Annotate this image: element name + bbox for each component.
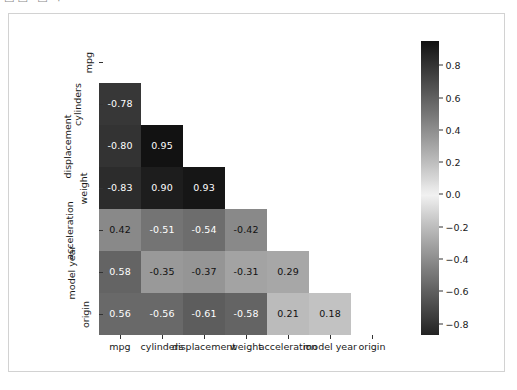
colorbar-tick-mark bbox=[439, 162, 443, 163]
colorbar-tick-mark bbox=[439, 291, 443, 292]
colorbar-tick-mark bbox=[439, 226, 443, 227]
colorbar-tick-label: 0.0 bbox=[446, 189, 461, 200]
colorbar-tick: −0.4 bbox=[439, 254, 469, 265]
x-axis-tick-label: mpg bbox=[109, 341, 130, 352]
colorbar-tick: −0.8 bbox=[439, 318, 469, 329]
cut-off-toolbar-strip: ▭▭ ▭ ⌐ bbox=[0, 0, 517, 9]
x-axis-tick-origin: origin bbox=[351, 335, 393, 352]
colorbar-tick: −0.2 bbox=[439, 221, 469, 232]
colorbar-tick-label: −0.6 bbox=[446, 286, 469, 297]
colorbar-tick: 0.4 bbox=[439, 124, 461, 135]
colorbar-tick-mark bbox=[439, 259, 443, 260]
y-axis-tick-label: origin bbox=[80, 300, 91, 327]
y-axis-tick-label: mpg bbox=[83, 51, 94, 72]
colorbar-tick-label: −0.4 bbox=[446, 254, 469, 265]
heatmap-cell: -0.56 bbox=[141, 293, 183, 335]
y-axis-tick-mark bbox=[99, 188, 103, 189]
heatmap-cell: 0.56 bbox=[99, 293, 141, 335]
x-axis-tick-label: weight bbox=[230, 341, 262, 352]
x-axis-tick-model-year: model year bbox=[309, 335, 351, 352]
x-axis-tick-mark bbox=[120, 335, 121, 339]
colorbar-tick-mark bbox=[439, 65, 443, 66]
y-axis-tick-mark bbox=[99, 314, 103, 315]
heatmap-cell: -0.58 bbox=[225, 293, 267, 335]
heatmap-cell: -0.78 bbox=[99, 83, 141, 125]
y-axis-tick-mark bbox=[99, 104, 103, 105]
heatmap-cell: -0.31 bbox=[225, 251, 267, 293]
colorbar: 0.80.60.40.20.0−0.2−0.4−0.6−0.8 bbox=[421, 41, 439, 335]
heatmap-cell: -0.42 bbox=[225, 209, 267, 251]
y-axis-tick-mpg: mpg bbox=[0, 41, 99, 83]
colorbar-gradient bbox=[421, 41, 439, 335]
y-axis-tick-cylinders: cylinders bbox=[0, 83, 99, 125]
x-axis-tick-mark bbox=[372, 335, 373, 339]
heatmap-cell: 0.93 bbox=[183, 167, 225, 209]
heatmap-cell: -0.35 bbox=[141, 251, 183, 293]
y-axis-tick-label: model year bbox=[67, 245, 78, 299]
heatmap-cell: 0.21 bbox=[267, 293, 309, 335]
x-axis-tick-mark bbox=[330, 335, 331, 339]
y-axis-tick-mark bbox=[99, 62, 103, 63]
x-axis-tick-label: origin bbox=[358, 341, 385, 352]
heatmap-cell: -0.54 bbox=[183, 209, 225, 251]
colorbar-tick-label: 0.4 bbox=[446, 124, 461, 135]
colorbar-tick-mark bbox=[439, 323, 443, 324]
toolbar-glyph-fragment: ▭▭ ▭ ⌐ bbox=[4, 0, 69, 6]
y-axis-tick-acceleration: acceleration bbox=[0, 209, 99, 251]
heatmap-cell: -0.61 bbox=[183, 293, 225, 335]
y-axis-tick-label: cylinders bbox=[72, 83, 83, 126]
correlation-heatmap: -0.78-0.800.95-0.830.900.930.42-0.51-0.5… bbox=[99, 41, 393, 335]
heatmap-cell: 0.42 bbox=[99, 209, 141, 251]
colorbar-tick: 0.8 bbox=[439, 60, 461, 71]
heatmap-cell: 0.29 bbox=[267, 251, 309, 293]
y-axis-tick-model-year: model year bbox=[0, 251, 99, 293]
y-axis-tick-displacement: displacement bbox=[0, 125, 99, 167]
x-axis-tick-mark bbox=[162, 335, 163, 339]
colorbar-tick: 0.2 bbox=[439, 157, 461, 168]
colorbar-tick-label: 0.6 bbox=[446, 92, 461, 103]
x-axis-tick-mark bbox=[246, 335, 247, 339]
y-axis-tick-origin: origin bbox=[0, 293, 99, 335]
heatmap-cell: 0.95 bbox=[141, 125, 183, 167]
heatmap-cell: -0.51 bbox=[141, 209, 183, 251]
colorbar-tick-mark bbox=[439, 194, 443, 195]
y-axis-tick-mark bbox=[99, 272, 103, 273]
heatmap-cell: 0.18 bbox=[309, 293, 351, 335]
y-axis-tick-label: weight bbox=[77, 172, 88, 204]
heatmap-cell: 0.90 bbox=[141, 167, 183, 209]
colorbar-tick-mark bbox=[439, 97, 443, 98]
y-axis-tick-mark bbox=[99, 230, 103, 231]
x-axis-tick-mark bbox=[288, 335, 289, 339]
x-axis-tick-mark bbox=[204, 335, 205, 339]
heatmap-cell: -0.83 bbox=[99, 167, 141, 209]
heatmap-cell: -0.37 bbox=[183, 251, 225, 293]
colorbar-tick: 0.0 bbox=[439, 189, 461, 200]
colorbar-tick-label: −0.2 bbox=[446, 221, 469, 232]
colorbar-tick-label: 0.8 bbox=[446, 60, 461, 71]
colorbar-tick: 0.6 bbox=[439, 92, 461, 103]
x-axis-tick-label: model year bbox=[303, 341, 357, 352]
x-axis-tick-mpg: mpg bbox=[99, 335, 141, 352]
colorbar-tick: −0.6 bbox=[439, 286, 469, 297]
colorbar-tick-mark bbox=[439, 129, 443, 130]
heatmap-cell: -0.80 bbox=[99, 125, 141, 167]
figure-frame: -0.78-0.800.95-0.830.900.930.42-0.51-0.5… bbox=[8, 13, 505, 372]
x-axis-tick-displacement: displacement bbox=[183, 335, 225, 352]
y-axis-tick-mark bbox=[99, 146, 103, 147]
colorbar-tick-label: 0.2 bbox=[446, 157, 461, 168]
heatmap-cell: 0.58 bbox=[99, 251, 141, 293]
colorbar-tick-label: −0.8 bbox=[446, 318, 469, 329]
y-axis-tick-weight: weight bbox=[0, 167, 99, 209]
